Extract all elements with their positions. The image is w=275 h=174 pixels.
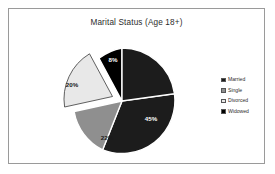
slice-label-married: 45% [145, 115, 158, 122]
chart-title: Marital Status (Age 18+) [9, 18, 264, 27]
legend-label-widowed: Widowed [228, 109, 249, 114]
slice-label-single: 22% [101, 134, 114, 141]
legend-label-married: Married [228, 77, 245, 82]
legend-item-divorced[interactable]: Divorced [221, 96, 269, 106]
legend-swatch-widowed [221, 109, 226, 114]
legend-item-single[interactable]: Single [221, 86, 269, 96]
slice-label-divorced: 20% [66, 81, 79, 88]
legend-swatch-married [221, 78, 226, 83]
legend-swatch-single [221, 88, 226, 93]
pie-slice-married-top [122, 48, 175, 101]
legend-label-divorced: Divorced [228, 98, 248, 103]
chart-legend: Married Single Divorced Widowed [221, 75, 269, 117]
legend-label-single: Single [228, 88, 242, 93]
chart-screenshot: Marital Status (Age 18+) 45% 22% 20% [0, 0, 275, 174]
slice-label-widowed: 8% [109, 56, 118, 63]
legend-item-married[interactable]: Married [221, 75, 269, 85]
legend-swatch-divorced [221, 99, 226, 104]
pie-chart: 45% 22% 20% 8% [21, 35, 209, 161]
legend-item-widowed[interactable]: Widowed [221, 107, 269, 117]
pie-plot-area: 45% 22% 20% 8% [21, 35, 209, 161]
chart-frame: Marital Status (Age 18+) 45% 22% 20% [8, 8, 265, 164]
